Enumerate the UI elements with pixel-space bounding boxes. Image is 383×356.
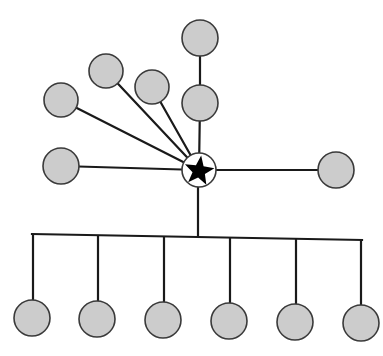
node-bottom-1 — [14, 300, 50, 336]
node-left — [43, 148, 79, 184]
bus-connector — [32, 187, 362, 305]
node-bottom-6 — [343, 305, 379, 341]
node-top-inner — [182, 85, 218, 121]
network-diagram — [0, 0, 383, 356]
hub-node — [182, 153, 216, 187]
node-bottom-5 — [277, 304, 313, 340]
node-bottom-3 — [145, 302, 181, 338]
node-right — [318, 152, 354, 188]
node-bottom-4 — [211, 303, 247, 339]
node-upper-fan-1 — [135, 70, 169, 104]
node-bottom-2 — [79, 301, 115, 337]
node-top-outer — [182, 20, 218, 56]
edge-left-to-hub — [61, 166, 199, 170]
node-upper-fan-2 — [89, 54, 123, 88]
node-upper-fan-3 — [44, 83, 78, 117]
